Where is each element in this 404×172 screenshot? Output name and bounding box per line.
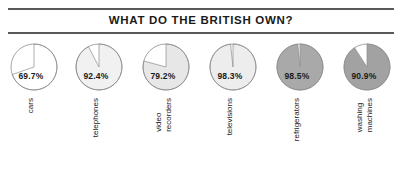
- category-label-refrigerators: refrigerators: [269, 98, 325, 172]
- category-label-line: cars: [26, 98, 36, 113]
- title-rule-top: [8, 8, 394, 10]
- category-label-video-recorders: videorecorders: [135, 98, 191, 172]
- pie-chart-figure: WHAT DO THE BRITISH OWN? 69.7%92.4%79.2%…: [0, 0, 404, 172]
- pie-cars[interactable]: 69.7%: [3, 40, 59, 96]
- pie-slice-graphic-cars: [3, 40, 59, 96]
- pie-slice-graphic-telephones: [68, 40, 124, 96]
- category-label-washing-machines: washingmachines: [336, 98, 392, 172]
- pie-refrigerators[interactable]: 98.5%: [269, 40, 325, 96]
- pie-slice-graphic-video-recorders: [135, 40, 191, 96]
- pie-slice-graphic-televisions: [202, 40, 258, 96]
- title-block: WHAT DO THE BRITISH OWN?: [8, 8, 394, 34]
- category-label-line: refrigerators: [292, 98, 302, 141]
- page-title: WHAT DO THE BRITISH OWN?: [8, 13, 394, 28]
- category-label-line: washing: [355, 98, 365, 132]
- pie-slice-graphic-refrigerators: [269, 40, 325, 96]
- title-rule-bottom: [8, 32, 394, 34]
- category-label-telephones: telephones: [68, 98, 124, 172]
- category-label-line: recorders: [163, 98, 173, 132]
- pie-video-recorders[interactable]: 79.2%: [135, 40, 191, 96]
- category-labels-row: carstelephonesvideorecorderstelevisionsr…: [0, 98, 404, 172]
- pie-washing-machines[interactable]: 90.9%: [336, 40, 392, 96]
- category-label-line: video: [154, 98, 164, 132]
- category-label-line: televisions: [225, 98, 235, 135]
- category-label-televisions: televisions: [202, 98, 258, 172]
- pie-telephones[interactable]: 92.4%: [68, 40, 124, 96]
- pie-televisions[interactable]: 98.3%: [202, 40, 258, 96]
- category-label-cars: cars: [3, 98, 59, 172]
- category-label-line: telephones: [91, 98, 101, 137]
- pies-row: 69.7%92.4%79.2%98.3%98.5%90.9%: [0, 40, 404, 96]
- pie-slice-graphic-washing-machines: [336, 40, 392, 96]
- category-label-line: machines: [364, 98, 374, 132]
